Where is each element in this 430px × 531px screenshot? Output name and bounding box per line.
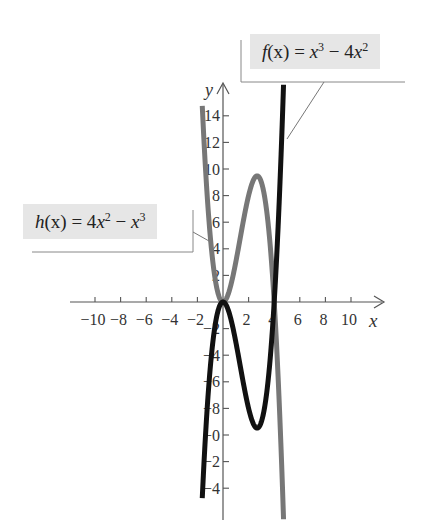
h-name: h [35, 211, 45, 232]
f-eq: = [289, 41, 309, 62]
x-tick-label: −10 [80, 311, 105, 328]
f-term1: x [310, 41, 318, 62]
y-axis-label: y [203, 80, 213, 100]
x-tick-label: −4 [161, 311, 178, 328]
y-tick-label: 6 [212, 214, 220, 231]
y-tick-label: 8 [212, 187, 220, 204]
x-tick-label: 2 [243, 311, 251, 328]
h-arg: (x) [45, 211, 67, 232]
f-function-label: f(x) = x3 − 4x2 [250, 34, 380, 69]
h-term1: x [96, 211, 104, 232]
x-tick-label: −6 [136, 311, 153, 328]
plot-area: xy −10−8−6−4−2246810−4−2−0−8−6−4−2246810… [0, 0, 430, 531]
x-tick-label: 6 [294, 311, 302, 328]
x-tick-label: 8 [319, 311, 327, 328]
h-function-label: h(x) = 4x2 − x3 [23, 204, 157, 239]
f-arg: (x) [267, 41, 289, 62]
f-exp2: 2 [362, 40, 368, 54]
f-term2: x [354, 41, 362, 62]
h-eq: = 4 [67, 211, 97, 232]
h-op: − [111, 211, 131, 232]
h-exp2: 3 [139, 210, 145, 224]
x-axis-label: x [368, 310, 378, 331]
f-op: − 4 [324, 41, 354, 62]
x-tick-label: −2 [187, 311, 204, 328]
x-tick-label: −8 [110, 311, 127, 328]
x-tick-label: 10 [341, 311, 357, 328]
y-tick-label: 14 [204, 107, 220, 124]
